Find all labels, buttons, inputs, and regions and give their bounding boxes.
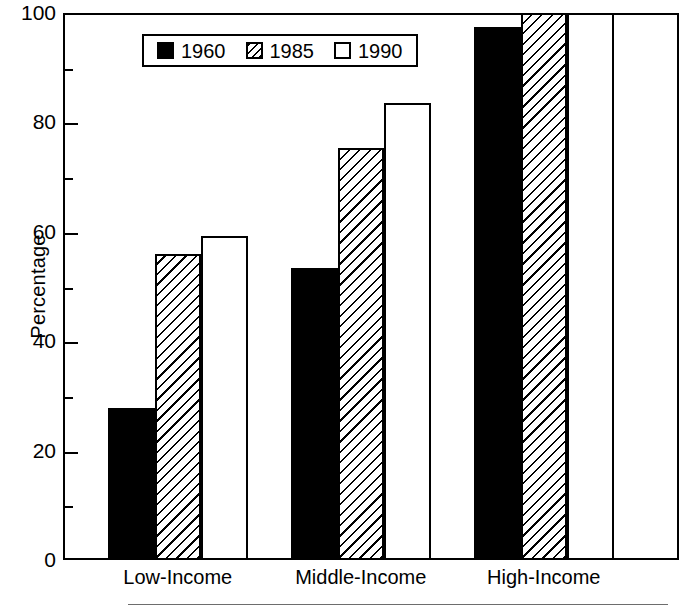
y-axis-tick-labels: 020406080100 bbox=[0, 0, 56, 612]
legend: 196019851990 bbox=[142, 34, 418, 67]
page-rule bbox=[128, 604, 668, 605]
legend-swatch-solid-icon bbox=[157, 42, 174, 59]
x-tick-label-high-income: High-Income bbox=[434, 566, 654, 589]
legend-swatch-hatch-icon bbox=[246, 42, 263, 59]
legend-entry-1990: 1990 bbox=[334, 41, 403, 61]
bar-middle-income-1960 bbox=[291, 268, 338, 560]
bar-low-income-1990 bbox=[201, 236, 248, 560]
bar-low-income-1985 bbox=[155, 254, 202, 560]
legend-swatch-empty-icon bbox=[334, 42, 351, 59]
y-tick-label: 100 bbox=[2, 2, 56, 23]
x-axis-tick-labels: Low-IncomeMiddle-IncomeHigh-Income bbox=[63, 566, 679, 600]
y-tick-label: 20 bbox=[2, 440, 56, 461]
legend-label: 1990 bbox=[358, 41, 403, 61]
legend-entry-1985: 1985 bbox=[246, 41, 315, 61]
y-tick-label: 60 bbox=[2, 221, 56, 242]
bar-middle-income-1985 bbox=[338, 148, 385, 560]
bar-high-income-1990 bbox=[567, 13, 614, 560]
y-tick-label: 0 bbox=[2, 549, 56, 570]
legend-entry-1960: 1960 bbox=[157, 41, 226, 61]
y-tick-label: 80 bbox=[2, 111, 56, 132]
bars-layer bbox=[63, 13, 679, 560]
y-tick-label: 40 bbox=[2, 330, 56, 351]
bar-high-income-1960 bbox=[474, 27, 521, 560]
bar-high-income-1985 bbox=[521, 13, 568, 560]
legend-label: 1985 bbox=[270, 41, 315, 61]
legend-label: 1960 bbox=[181, 41, 226, 61]
bar-chart: Percentage 020406080100 Low-IncomeMiddle… bbox=[0, 0, 692, 612]
bar-middle-income-1990 bbox=[384, 103, 431, 560]
bar-low-income-1960 bbox=[108, 408, 155, 560]
